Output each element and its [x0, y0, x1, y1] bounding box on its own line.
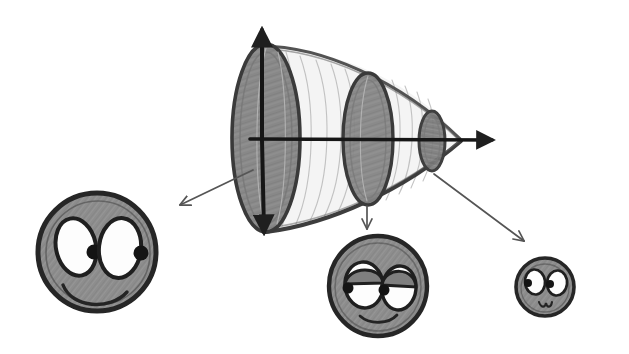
face-large — [38, 193, 156, 311]
face-middle-pupil-right — [379, 285, 390, 296]
sketch-canvas — [0, 0, 629, 354]
face-small-pupil-left — [524, 279, 532, 287]
face-middle — [329, 236, 427, 336]
face-middle-pupil-left — [343, 283, 354, 294]
face-small-eye-left — [524, 269, 547, 296]
face-large-pupil-right — [134, 246, 149, 261]
face-small-eye-right — [546, 270, 569, 297]
horizontal-axis-right — [250, 139, 492, 140]
sketch-svg — [0, 0, 629, 354]
face-small — [516, 258, 574, 316]
face-small-pupil-right — [546, 280, 554, 288]
vertical-axis-down — [262, 140, 264, 232]
